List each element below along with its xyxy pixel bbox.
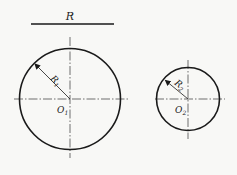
circle-1-group: R1 O1: [14, 37, 129, 158]
diagram-svg: R R1 O1 R2 O2: [0, 0, 237, 175]
circle-2-center-label: O2: [175, 105, 186, 116]
reference-segment-label: R: [65, 10, 74, 23]
circle-1-center-label: O1: [57, 105, 68, 116]
circle-2-radius-label: R2: [171, 77, 187, 93]
diagram-canvas: R R1 O1 R2 O2: [0, 0, 237, 175]
circle-2-group: R2 O2: [155, 60, 225, 139]
circle-1-radius-label: R1: [47, 73, 63, 89]
